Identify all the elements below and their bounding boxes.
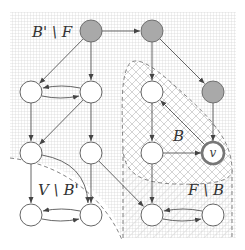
node-circle — [141, 81, 163, 103]
node-v: v — [202, 142, 224, 164]
node-n9 — [141, 142, 163, 164]
node-n13 — [202, 204, 224, 226]
node-n3 — [20, 81, 42, 103]
label-b: B — [172, 127, 184, 145]
node-circle — [80, 20, 102, 42]
label-f-minus-b: F \ B — [187, 181, 224, 199]
node-n10 — [20, 204, 42, 226]
node-circle — [20, 81, 42, 103]
node-n2 — [141, 20, 163, 42]
node-circle — [202, 81, 224, 103]
node-n7 — [20, 142, 42, 164]
node-circle — [80, 204, 102, 226]
label-b-prime-minus-f: B' \ F — [31, 23, 73, 41]
edge-n11-to-n10 — [43, 209, 80, 211]
node-circle — [141, 20, 163, 42]
node-n6 — [202, 81, 224, 103]
label-v-minus-b-prime: V \ B' — [38, 181, 79, 199]
node-n5 — [141, 81, 163, 103]
diagram-canvas: v B' \ F V \ B' B F \ B — [0, 0, 245, 250]
node-label-v: v — [210, 146, 217, 160]
graph-diagram: v B' \ F V \ B' B F \ B — [0, 0, 245, 250]
node-circle — [202, 204, 224, 226]
node-circle — [80, 142, 102, 164]
node-n8 — [80, 142, 102, 164]
node-n4 — [80, 81, 102, 103]
edge-n10-to-n11 — [42, 219, 79, 221]
node-circle — [20, 204, 42, 226]
node-circle — [141, 142, 163, 164]
node-n11 — [80, 204, 102, 226]
node-n12 — [141, 204, 163, 226]
node-n1 — [80, 20, 102, 42]
node-circle — [80, 81, 102, 103]
node-circle — [20, 142, 42, 164]
node-circle — [141, 204, 163, 226]
